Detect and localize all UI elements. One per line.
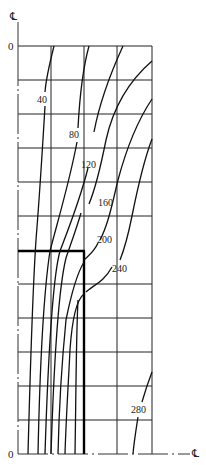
contour-inner bbox=[75, 300, 78, 454]
top-centerline-symbol: ℄ bbox=[9, 10, 17, 22]
contour-label-120: 120 bbox=[81, 159, 96, 170]
contour-280-upper bbox=[142, 372, 152, 402]
contour-diagram: ℄ ℄ 0 0 40 80 120 160 200 240 280 bbox=[0, 0, 206, 465]
contour-120-upper bbox=[94, 46, 123, 132]
contour-label-240: 240 bbox=[112, 263, 127, 274]
origin-bottom-label: 0 bbox=[8, 448, 14, 460]
contour-280 bbox=[133, 417, 138, 454]
contour-240-lead bbox=[86, 267, 112, 292]
right-centerline-symbol: ℄ bbox=[191, 447, 199, 459]
contour-label-160: 160 bbox=[98, 197, 113, 208]
contour-200-upper bbox=[100, 99, 152, 240]
contour-40 bbox=[28, 106, 45, 454]
contour-label-40: 40 bbox=[37, 94, 47, 105]
contour-40-upper bbox=[45, 46, 54, 92]
contour-label-80: 80 bbox=[69, 129, 79, 140]
contour-label-200: 200 bbox=[97, 234, 112, 245]
origin-top-label: 0 bbox=[8, 40, 14, 52]
contour-200 bbox=[58, 262, 84, 454]
contour-200-lead bbox=[84, 243, 98, 260]
contour-160-upper bbox=[89, 61, 152, 204]
contour-label-280: 280 bbox=[131, 404, 146, 415]
